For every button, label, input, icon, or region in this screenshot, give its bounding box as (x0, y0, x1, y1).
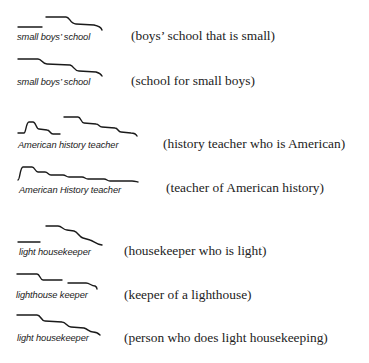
pitch-contour-1 (18, 17, 102, 30)
gloss-text: (housekeeper who is light) (124, 243, 266, 259)
pitch-contour-7 (17, 315, 100, 335)
phrase-label: American History teacher (19, 185, 121, 195)
gloss-text: (boys’ school that is small) (131, 28, 275, 44)
contour-segment (46, 17, 102, 30)
phrase-label: American history teacher (18, 140, 118, 150)
contour-segment (64, 117, 137, 136)
pitch-contour-6 (17, 274, 97, 289)
contour-segment (17, 315, 100, 335)
contour-segment (68, 283, 97, 289)
contour-segment (18, 59, 102, 76)
contour-segment (18, 167, 138, 182)
phrase-label: small boys’ school (17, 32, 90, 42)
gloss-text: (history teacher who is American) (163, 136, 345, 152)
pitch-contour-3 (18, 117, 137, 136)
contour-segment (46, 226, 102, 245)
phrase-label: light housekeeper (17, 333, 89, 343)
gloss-text: (person who does light housekeeping) (124, 330, 328, 346)
pitch-contour-4 (18, 167, 138, 182)
gloss-text: (school for small boys) (131, 73, 255, 89)
gloss-text: (keeper of a lighthouse) (124, 287, 252, 303)
phrase-label: small boys’ school (17, 77, 90, 87)
pitch-contour-2 (18, 59, 102, 76)
phrase-label: light housekeeper (19, 247, 91, 257)
contour-segment (18, 122, 60, 134)
gloss-text: (teacher of American history) (166, 180, 324, 196)
phrase-label: lighthouse keeper (16, 290, 88, 300)
contour-segment (17, 274, 62, 280)
pitch-contour-5 (18, 226, 102, 245)
